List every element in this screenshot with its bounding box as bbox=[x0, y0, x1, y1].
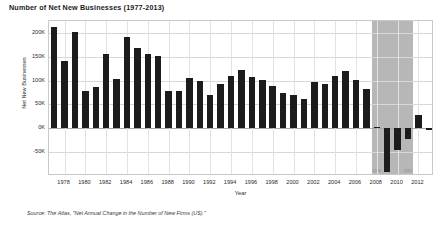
bar-1992 bbox=[207, 95, 213, 128]
bar-1989 bbox=[176, 91, 182, 129]
recession-shaded-region: 2008 2011 bbox=[372, 21, 414, 174]
source-note: Source: The Atlas, "Net Annual Change in… bbox=[27, 210, 206, 216]
bar-1995 bbox=[238, 70, 244, 128]
bar-2000 bbox=[290, 95, 296, 128]
bar-1990 bbox=[186, 78, 192, 128]
bar-1982 bbox=[103, 54, 109, 128]
x-tick-label: 2008 bbox=[370, 179, 382, 185]
x-tick-label: 1996 bbox=[245, 179, 257, 185]
x-tick-label: 2006 bbox=[349, 179, 361, 185]
x-tick-label: 1978 bbox=[57, 179, 69, 185]
x-tick-label: 2000 bbox=[286, 179, 298, 185]
bar-1984 bbox=[124, 37, 130, 128]
x-axis-title: Year bbox=[48, 190, 433, 196]
x-tick-label: 2010 bbox=[390, 179, 402, 185]
bar-2007 bbox=[363, 89, 369, 129]
bar-1991 bbox=[197, 81, 203, 129]
gridline-vertical bbox=[377, 21, 378, 174]
bar-2013 bbox=[426, 128, 432, 130]
bar-1977 bbox=[51, 27, 57, 128]
bar-1980 bbox=[82, 91, 88, 129]
x-tick-label: 2004 bbox=[328, 179, 340, 185]
bar-1983 bbox=[113, 79, 119, 128]
x-tick-label: 1998 bbox=[265, 179, 277, 185]
bar-1993 bbox=[217, 84, 223, 128]
y-tick-label: 50K bbox=[35, 100, 45, 106]
bar-2011 bbox=[405, 128, 411, 138]
bar-2005 bbox=[342, 71, 348, 129]
page-title: Number of Net New Businesses (1977-2013) bbox=[9, 3, 164, 12]
x-tick-label: 1992 bbox=[203, 179, 215, 185]
x-tick-label: 1984 bbox=[120, 179, 132, 185]
bar-1985 bbox=[134, 48, 140, 129]
gridline-vertical bbox=[418, 21, 419, 174]
shaded-region-end-label: 2011 bbox=[404, 168, 412, 173]
y-tick-label: -50K bbox=[33, 148, 45, 154]
y-tick-label: 0K bbox=[38, 124, 45, 130]
x-tick-label: 1988 bbox=[161, 179, 173, 185]
bar-1997 bbox=[259, 80, 265, 129]
y-axis-title-container: Net New Businesses bbox=[8, 20, 18, 175]
bar-1994 bbox=[228, 76, 234, 128]
bar-1999 bbox=[280, 93, 286, 129]
y-axis-tick-labels: 200K150K100K50K0K-50K bbox=[18, 20, 45, 175]
x-tick-label: 1994 bbox=[224, 179, 236, 185]
bar-2001 bbox=[301, 99, 307, 129]
y-tick-label: 200K bbox=[32, 29, 45, 35]
x-tick-label: 1986 bbox=[141, 179, 153, 185]
y-tick-label: 150K bbox=[32, 53, 45, 59]
bar-1996 bbox=[249, 77, 255, 129]
y-tick-label: 100K bbox=[32, 77, 45, 83]
x-tick-label: 1982 bbox=[99, 179, 111, 185]
bar-1986 bbox=[145, 54, 151, 128]
bar-2008 bbox=[374, 127, 380, 128]
bar-2006 bbox=[353, 80, 359, 128]
bar-1987 bbox=[155, 56, 161, 128]
bar-1981 bbox=[93, 87, 99, 128]
x-tick-label: 1980 bbox=[78, 179, 90, 185]
x-axis-tick-labels: 1978198019821984198619881990199219941996… bbox=[48, 179, 433, 188]
x-tick-label: 1990 bbox=[182, 179, 194, 185]
gridline-vertical bbox=[398, 21, 399, 174]
bar-2003 bbox=[322, 84, 328, 128]
bar-1978 bbox=[61, 61, 67, 129]
plot-area: 2008 2011 bbox=[48, 20, 433, 175]
bar-2010 bbox=[394, 128, 400, 149]
bar-1988 bbox=[165, 91, 171, 128]
bar-2002 bbox=[311, 82, 317, 129]
bar-2004 bbox=[332, 76, 338, 128]
x-tick-label: 2012 bbox=[411, 179, 423, 185]
chart-figure: Number of Net New Businesses (1977-2013)… bbox=[0, 0, 438, 231]
bar-1979 bbox=[72, 32, 78, 128]
bar-2009 bbox=[384, 128, 390, 172]
bar-2012 bbox=[415, 115, 421, 128]
x-tick-label: 2002 bbox=[307, 179, 319, 185]
bar-1998 bbox=[269, 86, 275, 128]
